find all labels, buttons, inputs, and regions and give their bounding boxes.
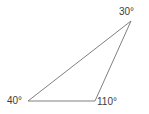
- triangle-outline: [28, 21, 131, 101]
- triangle-svg: [0, 0, 149, 114]
- angle-label-apex: 30°: [119, 6, 134, 17]
- triangle-figure: 30° 40° 110°: [0, 0, 149, 114]
- angle-label-right: 110°: [97, 96, 117, 107]
- angle-label-left: 40°: [7, 95, 22, 106]
